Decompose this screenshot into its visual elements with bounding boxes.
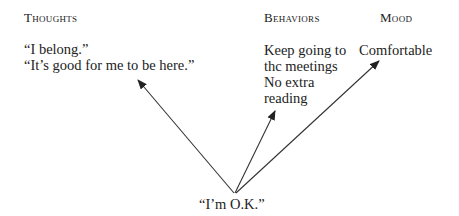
arrow-to-behaviors — [235, 111, 275, 193]
arrow-to-thoughts — [138, 80, 234, 193]
arrows — [0, 0, 459, 216]
arrow-to-mood — [236, 61, 379, 193]
